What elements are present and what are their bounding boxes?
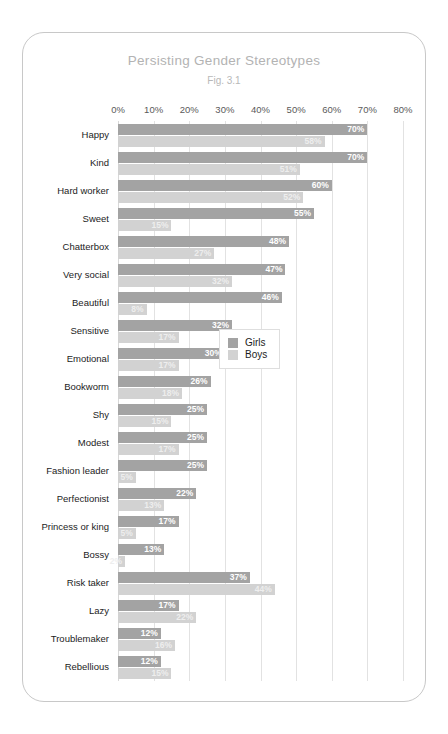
- bar-girls: 25%: [118, 404, 207, 415]
- bar-value-label: 18%: [162, 389, 179, 398]
- bar-value-label: 32%: [212, 321, 229, 330]
- bar-value-label: 25%: [187, 433, 204, 442]
- gridline-20: [189, 121, 190, 681]
- bar-value-label: 37%: [230, 573, 247, 582]
- bar-value-label: 60%: [312, 181, 329, 190]
- bar-value-label: 5%: [121, 473, 133, 482]
- legend-swatch-icon: [228, 350, 238, 360]
- category-label: Troublemaker: [51, 634, 109, 644]
- category-label: Very social: [63, 270, 109, 280]
- gridline-40: [261, 121, 262, 681]
- gridline-30: [225, 121, 226, 681]
- category-label: Sensitive: [70, 326, 109, 336]
- x-axis-tick-label: 80%: [393, 104, 412, 115]
- bar-girls: 60%: [118, 180, 332, 191]
- category-label: Kind: [90, 158, 109, 168]
- chart-subtitle: Fig. 3.1: [23, 75, 425, 86]
- gridline-50: [296, 121, 297, 681]
- bar-girls: 30%: [118, 348, 225, 359]
- bar-boys: 5%: [118, 472, 136, 483]
- x-axis-tick-label: 30%: [215, 104, 234, 115]
- bar-boys: 13%: [118, 500, 164, 511]
- gridline-0: [118, 121, 119, 681]
- legend-item-boys[interactable]: Boys: [228, 350, 267, 360]
- x-axis-tick-label: 70%: [358, 104, 377, 115]
- bar-value-label: 17%: [159, 361, 176, 370]
- bar-girls: 70%: [118, 152, 367, 163]
- category-label: Chatterbox: [63, 242, 109, 252]
- bar-boys: 51%: [118, 164, 300, 175]
- bar-value-label: 8%: [131, 305, 143, 314]
- category-label: Rebellious: [65, 662, 109, 672]
- category-label: Bookworm: [64, 382, 109, 392]
- bar-value-label: 17%: [159, 601, 176, 610]
- bar-value-label: 17%: [159, 333, 176, 342]
- bar-boys: 15%: [118, 668, 171, 679]
- bar-boys: 2%: [118, 556, 125, 567]
- bar-boys: 22%: [118, 612, 196, 623]
- x-axis-tick-label: 60%: [322, 104, 341, 115]
- bar-value-label: 25%: [187, 461, 204, 470]
- bar-boys: 16%: [118, 640, 175, 651]
- bar-girls: 55%: [118, 208, 314, 219]
- category-label: Perfectionist: [57, 494, 109, 504]
- bar-girls: 37%: [118, 572, 250, 583]
- bar-girls: 25%: [118, 432, 207, 443]
- bar-boys: 52%: [118, 192, 303, 203]
- chart-title: Persisting Gender Stereotypes: [23, 53, 425, 68]
- category-label: Bossy: [83, 550, 109, 560]
- gridline-70: [367, 121, 368, 681]
- bar-value-label: 2%: [110, 557, 122, 566]
- bar-value-label: 17%: [159, 445, 176, 454]
- chart-legend: GirlsBoys: [219, 329, 280, 369]
- bar-boys: 18%: [118, 388, 182, 399]
- category-label: Shy: [93, 410, 109, 420]
- bar-value-label: 47%: [265, 265, 282, 274]
- legend-item-girls[interactable]: Girls: [228, 338, 267, 348]
- x-axis-tick-label: 40%: [251, 104, 270, 115]
- bar-girls: 48%: [118, 236, 289, 247]
- gridline-10: [154, 121, 155, 681]
- category-label: Beautiful: [72, 298, 109, 308]
- bar-girls: 22%: [118, 488, 196, 499]
- x-axis-tick-label: 0%: [111, 104, 125, 115]
- bar-boys: 17%: [118, 444, 179, 455]
- bar-value-label: 15%: [151, 221, 168, 230]
- bar-value-label: 22%: [176, 613, 193, 622]
- bar-girls: 47%: [118, 264, 285, 275]
- bar-girls: 17%: [118, 516, 179, 527]
- bar-boys: 8%: [118, 304, 147, 315]
- category-label: Princess or king: [41, 522, 109, 532]
- bar-value-label: 32%: [212, 277, 229, 286]
- bar-boys: 15%: [118, 416, 171, 427]
- gridline-60: [332, 121, 333, 681]
- x-axis-tick-label: 20%: [180, 104, 199, 115]
- bar-boys: 44%: [118, 584, 275, 595]
- bar-value-label: 70%: [347, 125, 364, 134]
- bar-girls: 17%: [118, 600, 179, 611]
- bar-girls: 70%: [118, 124, 367, 135]
- category-label: Emotional: [67, 354, 109, 364]
- bar-girls: 46%: [118, 292, 282, 303]
- category-label: Modest: [78, 438, 109, 448]
- bar-value-label: 26%: [191, 377, 208, 386]
- bar-value-label: 13%: [144, 545, 161, 554]
- bar-girls: 25%: [118, 460, 207, 471]
- bar-girls: 12%: [118, 656, 161, 667]
- bar-value-label: 55%: [294, 209, 311, 218]
- bar-value-label: 22%: [176, 489, 193, 498]
- bar-value-label: 5%: [121, 529, 133, 538]
- bar-boys: 5%: [118, 528, 136, 539]
- bar-girls: 26%: [118, 376, 211, 387]
- bar-value-label: 16%: [155, 641, 172, 650]
- bar-value-label: 44%: [255, 585, 272, 594]
- bar-value-label: 48%: [269, 237, 286, 246]
- category-label: Risk taker: [67, 578, 109, 588]
- chart-card: Persisting Gender Stereotypes Fig. 3.1 0…: [22, 32, 426, 702]
- bar-value-label: 13%: [144, 501, 161, 510]
- bar-value-label: 12%: [141, 657, 158, 666]
- bar-value-label: 25%: [187, 405, 204, 414]
- bar-boys: 27%: [118, 248, 214, 259]
- bar-value-label: 51%: [280, 165, 297, 174]
- chart-plot-area: 0%10%20%30%40%50%60%70%80%Happy70%58%Kin…: [118, 121, 403, 681]
